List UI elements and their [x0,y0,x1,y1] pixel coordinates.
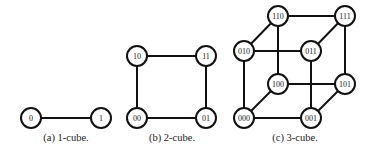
node-label: 10 [133,52,141,61]
node-2-cube-10: 10 [127,46,147,66]
caption-2-cube: (b) 2-cube. [149,132,195,143]
node-3-cube-100: 100 [268,74,288,94]
node-3-cube-111: 111 [335,6,355,26]
node-label: 101 [339,80,351,89]
node-2-cube-00: 00 [127,108,147,128]
node-3-cube-001: 001 [301,108,321,128]
node-2-cube-01: 01 [196,108,216,128]
nodes-layer: 0110110001110111010011100101000001 [21,6,355,128]
node-label: 011 [305,47,317,56]
caption-1-cube: (a) 1-cube. [43,132,88,143]
node-label: 00 [133,114,141,123]
node-label: 111 [339,12,350,21]
node-label: 1 [99,114,103,123]
node-label: 0 [29,114,33,123]
node-label: 01 [202,114,210,123]
node-2-cube-11: 11 [196,46,216,66]
node-label: 001 [305,114,317,123]
node-3-cube-110: 110 [268,6,288,26]
edges-layer [31,16,345,118]
node-label: 11 [202,52,210,61]
node-label: 100 [272,80,284,89]
node-3-cube-011: 011 [301,41,321,61]
caption-3-cube: (c) 3-cube. [272,132,317,143]
node-3-cube-101: 101 [335,74,355,94]
node-label: 010 [238,47,250,56]
node-1-cube-1: 1 [91,108,111,128]
node-3-cube-010: 010 [234,41,254,61]
node-label: 110 [272,12,284,21]
node-3-cube-000: 000 [234,108,254,128]
node-1-cube-0: 0 [21,108,41,128]
node-label: 000 [238,114,250,123]
